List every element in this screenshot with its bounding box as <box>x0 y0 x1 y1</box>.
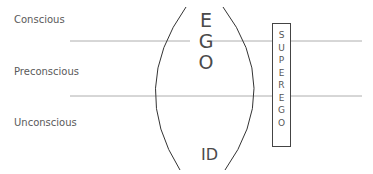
superego-letter: G <box>278 104 285 117</box>
superego-box: S U P E R E G O <box>272 23 291 147</box>
superego-letter: S <box>279 29 285 42</box>
superego-letter: O <box>278 117 285 130</box>
ego-letter-g: G <box>196 31 216 51</box>
mind-left-arc <box>155 7 186 170</box>
level-label-unconscious: Unconscious <box>14 117 77 128</box>
mind-right-arc <box>223 7 254 170</box>
ego-letter-e: E <box>196 10 216 30</box>
superego-letter: R <box>278 79 284 92</box>
diagram-lines <box>0 0 373 174</box>
level-label-conscious: Conscious <box>14 14 65 25</box>
level-label-preconscious: Preconscious <box>14 66 79 77</box>
ego-letter-o: O <box>196 52 216 72</box>
superego-letter: E <box>279 92 285 105</box>
id-label: ID <box>201 146 218 164</box>
superego-letter: U <box>278 42 285 55</box>
superego-letter: P <box>279 54 284 67</box>
superego-letter: E <box>279 67 285 80</box>
